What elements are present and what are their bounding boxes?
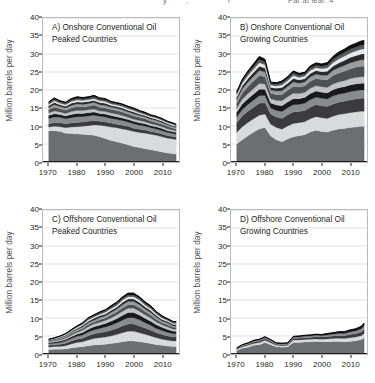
x-tick-label-2010: 2010 xyxy=(342,360,360,369)
y-tick-mark-0 xyxy=(227,355,230,356)
panel-title-a: A) Onshore Conventional Oil Peaked Count… xyxy=(52,22,180,45)
y-tick-mark-0 xyxy=(39,355,42,356)
y-axis-label-d: Million barrels per day xyxy=(190,192,204,352)
panel-title-line2-a: Peaked Countries xyxy=(52,34,180,46)
y-tick-label-35: 35 xyxy=(30,31,39,40)
y-tick-mark-40 xyxy=(227,209,230,210)
y-tick-mark-25 xyxy=(227,263,230,264)
y-tick-mark-35 xyxy=(39,227,42,228)
panel-title-line2-b: Growing Countries xyxy=(240,34,368,46)
x-tick-label-2000: 2000 xyxy=(125,168,143,177)
y-axis-label-text-b: Million barrels per day xyxy=(193,39,202,121)
x-tick-label-1980: 1980 xyxy=(68,360,86,369)
y-axis-label-b: Million barrels per day xyxy=(190,0,204,160)
x-tick-label-1970: 1970 xyxy=(227,168,245,177)
y-tick-mark-40 xyxy=(227,17,230,18)
panel-title-b: B) Onshore Conventional Oil Growing Coun… xyxy=(240,22,368,45)
y-tick-mark-15 xyxy=(227,300,230,301)
y-axis-label-a: Million barrels per day xyxy=(2,0,16,160)
y-tick-label-35: 35 xyxy=(30,223,39,232)
y-tick-label-40: 40 xyxy=(30,13,39,22)
panel-title-line1-c: C) Offshore Conventional Oil xyxy=(52,215,157,224)
x-tick-mark-2010 xyxy=(162,163,163,166)
y-tick-mark-40 xyxy=(39,209,42,210)
x-tick-mark-2000 xyxy=(322,355,323,358)
y-tick-label-20: 20 xyxy=(218,278,227,287)
y-axis-label-text-a: Million barrels per day xyxy=(5,39,14,121)
y-tick-label-25: 25 xyxy=(30,259,39,268)
y-tick-label-20: 20 xyxy=(218,86,227,95)
y-tick-mark-5 xyxy=(39,336,42,337)
x-tick-label-2010: 2010 xyxy=(342,168,360,177)
panel-title-line1-a: A) Onshore Conventional Oil xyxy=(52,23,156,32)
x-tick-mark-2010 xyxy=(162,355,163,358)
y-tick-label-35: 35 xyxy=(218,223,227,232)
y-tick-label-10: 10 xyxy=(218,122,227,131)
y-tick-label-15: 15 xyxy=(218,104,227,113)
x-tick-mark-1990 xyxy=(293,355,294,358)
y-tick-label-15: 15 xyxy=(218,296,227,305)
y-tick-label-20: 20 xyxy=(30,86,39,95)
y-tick-mark-0 xyxy=(39,163,42,164)
x-tick-label-1990: 1990 xyxy=(96,360,114,369)
y-axis-label-text-d: Million barrels per day xyxy=(193,231,202,313)
y-tick-mark-20 xyxy=(227,90,230,91)
y-tick-mark-25 xyxy=(39,71,42,72)
y-tick-mark-10 xyxy=(39,318,42,319)
x-tick-label-1990: 1990 xyxy=(284,168,302,177)
x-tick-label-2010: 2010 xyxy=(154,168,172,177)
x-tick-mark-1970 xyxy=(235,355,236,358)
y-tick-mark-30 xyxy=(227,245,230,246)
x-tick-label-1990: 1990 xyxy=(284,360,302,369)
y-tick-mark-15 xyxy=(39,108,42,109)
panel-title-d: D) Offshore Conventional Oil Growing Cou… xyxy=(240,214,368,237)
y-tick-label-10: 10 xyxy=(218,314,227,323)
x-tick-label-1990: 1990 xyxy=(96,168,114,177)
y-tick-mark-30 xyxy=(39,245,42,246)
x-tick-label-2000: 2000 xyxy=(313,360,331,369)
x-tick-mark-1990 xyxy=(105,163,106,166)
x-tick-mark-1990 xyxy=(105,355,106,358)
x-tick-label-1980: 1980 xyxy=(256,360,274,369)
y-tick-label-25: 25 xyxy=(30,67,39,76)
y-tick-mark-35 xyxy=(39,35,42,36)
y-tick-label-15: 15 xyxy=(30,296,39,305)
panel-d: Million barrels per day 0510152025303540… xyxy=(188,192,375,383)
panel-b: Million barrels per day 0510152025303540… xyxy=(188,0,375,191)
y-tick-mark-20 xyxy=(227,282,230,283)
y-tick-label-35: 35 xyxy=(218,31,227,40)
y-tick-label-10: 10 xyxy=(30,122,39,131)
y-tick-mark-15 xyxy=(39,300,42,301)
x-tick-label-1970: 1970 xyxy=(227,360,245,369)
y-tick-label-40: 40 xyxy=(218,13,227,22)
panel-title-line2-d: Growing Countries xyxy=(240,226,368,238)
x-tick-label-1970: 1970 xyxy=(39,360,57,369)
y-tick-label-15: 15 xyxy=(30,104,39,113)
y-tick-mark-5 xyxy=(227,144,230,145)
y-tick-mark-10 xyxy=(227,318,230,319)
y-tick-mark-25 xyxy=(39,263,42,264)
y-tick-label-25: 25 xyxy=(218,259,227,268)
y-tick-mark-25 xyxy=(227,71,230,72)
y-tick-label-30: 30 xyxy=(218,241,227,250)
panel-title-c: C) Offshore Conventional Oil Peaked Coun… xyxy=(52,214,180,237)
panel-a: Million barrels per day 0510152025303540… xyxy=(0,0,187,191)
x-tick-mark-1990 xyxy=(293,163,294,166)
x-tick-mark-1980 xyxy=(76,355,77,358)
y-tick-mark-35 xyxy=(227,227,230,228)
y-tick-mark-0 xyxy=(227,163,230,164)
y-tick-mark-5 xyxy=(227,336,230,337)
x-tick-mark-1980 xyxy=(76,163,77,166)
y-tick-label-20: 20 xyxy=(30,278,39,287)
y-tick-label-25: 25 xyxy=(218,67,227,76)
y-tick-mark-30 xyxy=(227,53,230,54)
y-axis-label-text-c: Million barrels per day xyxy=(5,231,14,313)
y-tick-mark-5 xyxy=(39,144,42,145)
y-tick-mark-40 xyxy=(39,17,42,18)
y-axis-label-c: Million barrels per day xyxy=(2,192,16,352)
y-tick-label-40: 40 xyxy=(218,205,227,214)
x-tick-mark-1970 xyxy=(47,355,48,358)
x-tick-label-2000: 2000 xyxy=(313,168,331,177)
y-tick-label-30: 30 xyxy=(218,49,227,58)
y-tick-mark-10 xyxy=(227,126,230,127)
